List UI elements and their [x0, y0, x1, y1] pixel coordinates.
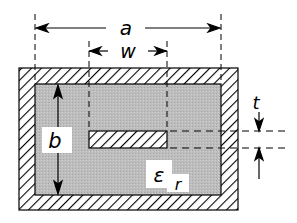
label-b: b — [48, 129, 61, 153]
label-t: t — [252, 92, 260, 113]
label-w: w — [120, 40, 136, 62]
label-epsilon: ε — [154, 163, 165, 187]
stripline-diagram: a w b t ε r — [0, 0, 297, 223]
center-strip — [89, 131, 167, 148]
label-a: a — [120, 16, 132, 40]
dimension-t-arrows — [255, 112, 263, 179]
